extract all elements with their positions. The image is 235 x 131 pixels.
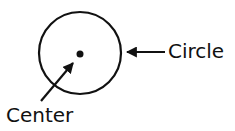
- center-label: Center: [6, 105, 73, 125]
- circle-label: Circle: [168, 41, 224, 61]
- center-arrow: [41, 63, 73, 101]
- circle-diagram: Circle Center: [0, 0, 235, 131]
- center-dot: [77, 51, 84, 58]
